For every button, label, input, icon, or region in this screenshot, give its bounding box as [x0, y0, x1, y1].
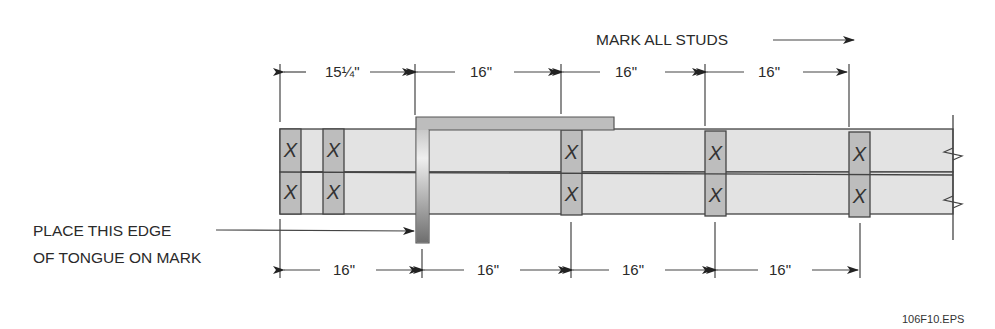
- bottom-dimension-label: 16": [617, 261, 649, 278]
- callout-line-1: PLACE THIS EDGE: [33, 221, 171, 240]
- stud-mark-x: X: [323, 182, 344, 202]
- stud-mark-x: X: [849, 186, 870, 206]
- framing-diagram: [0, 0, 995, 329]
- callout-arrow: [216, 230, 414, 231]
- bottom-dimension-label: 16": [764, 261, 796, 278]
- top-dimension-label: 16": [753, 63, 785, 80]
- callout-line-2: OF TONGUE ON MARK: [33, 248, 201, 267]
- stud-mark-x: X: [561, 184, 582, 204]
- stud-mark-x: X: [705, 185, 726, 205]
- bottom-dimension-label: 16": [328, 261, 360, 278]
- top-dimension-label: 16": [465, 63, 497, 80]
- stud-mark-x: X: [280, 182, 301, 202]
- stud-mark-x: X: [280, 140, 301, 160]
- stud-mark-x: X: [849, 144, 870, 164]
- top-dimension-label: 16": [610, 63, 642, 80]
- stud-mark-x: X: [323, 140, 344, 160]
- stud-mark-x: X: [705, 143, 726, 163]
- figure-id: 106F10.EPS: [902, 313, 964, 325]
- stud-mark-x: X: [561, 142, 582, 162]
- mark-all-studs-note: MARK ALL STUDS: [596, 30, 728, 49]
- top-dimension-label: 15¼": [320, 63, 365, 80]
- bottom-dimension-label: 16": [472, 261, 504, 278]
